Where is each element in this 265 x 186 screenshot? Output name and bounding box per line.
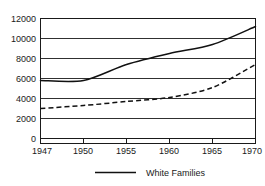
y-tick-label-2000: 2000 <box>16 114 36 124</box>
y-tick-label-10000: 10000 <box>11 34 36 44</box>
chart-canvas: 12000 10000 8000 6000 4000 2000 0 1947 1… <box>0 0 265 186</box>
x-tick-label-1955: 1955 <box>116 146 136 156</box>
line-chart: 12000 10000 8000 6000 4000 2000 0 1947 1… <box>0 0 265 186</box>
x-tick-label-1970: 1970 <box>242 146 262 156</box>
y-tick-label-12000: 12000 <box>11 14 36 24</box>
x-tick-label-1950: 1950 <box>73 146 93 156</box>
y-tick-label-0: 0 <box>31 134 36 144</box>
y-tick-label-6000: 6000 <box>16 74 36 84</box>
chart-background <box>0 0 265 186</box>
x-tick-label-1960: 1960 <box>159 146 179 156</box>
y-tick-label-4000: 4000 <box>16 94 36 104</box>
x-tick-label-1947: 1947 <box>32 146 52 156</box>
legend-label-white-families: White Families <box>146 168 206 178</box>
y-tick-label-8000: 8000 <box>16 54 36 64</box>
x-tick-label-1965: 1965 <box>202 146 222 156</box>
